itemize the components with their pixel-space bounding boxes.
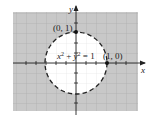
point-1-0 [105, 61, 109, 65]
unit-circle-diagram: (0, 1) (1, 0) x2 + y2 = 1 y x [0, 0, 151, 119]
point-label-0-1: (0, 1) [53, 23, 73, 33]
point-0-1 [74, 30, 78, 34]
y-axis-label: y [68, 4, 73, 14]
x-axis-label: x [140, 65, 145, 75]
point-label-1-0: (1, 0) [103, 51, 123, 61]
y-axis-arrow-icon [74, 5, 79, 11]
